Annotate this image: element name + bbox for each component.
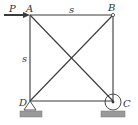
node-label-a: A xyxy=(25,3,33,14)
dimension-label-left: s xyxy=(22,53,27,64)
truss-diagram: P A B C D s s xyxy=(0,0,138,125)
dimension-label-top: s xyxy=(69,4,74,15)
joint-b-icon xyxy=(111,13,114,16)
node-label-b: B xyxy=(107,2,115,13)
load-label: P xyxy=(8,3,16,14)
node-label-c: C xyxy=(123,98,131,109)
node-label-d: D xyxy=(18,97,27,108)
